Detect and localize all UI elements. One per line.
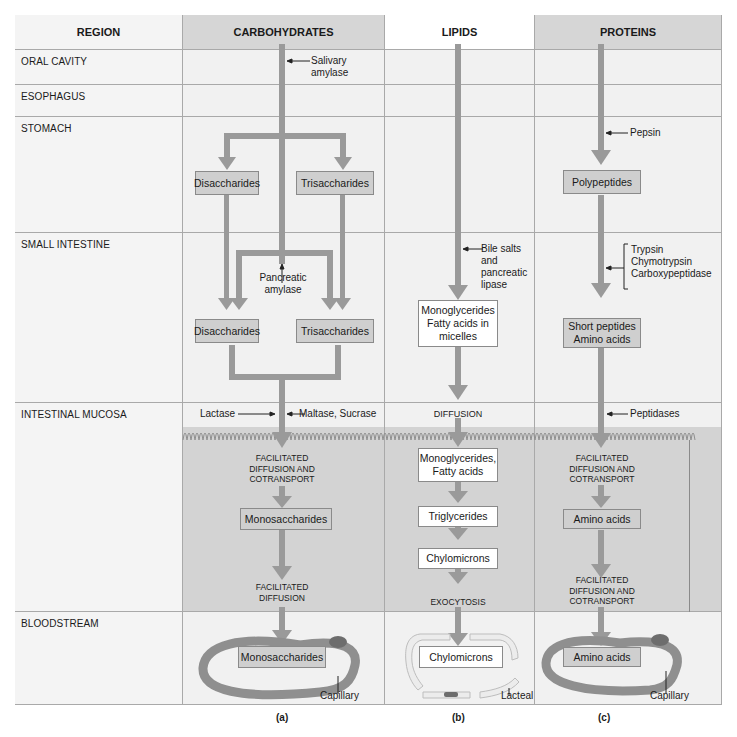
capillary-label-carbs: Capillary: [320, 690, 359, 702]
lacteal-label: Lacteal: [501, 690, 533, 702]
protein-transport-1: FACILITATED DIFFUSION AND COTRANSPORT: [556, 453, 648, 485]
lipid-mucosa-chylomicrons: Chylomicrons: [418, 548, 498, 569]
carb-stomach-disaccharides: Disaccharides: [195, 171, 259, 195]
lipid-transport-1: DIFFUSION: [427, 408, 489, 420]
carb-transport-1: FACILITATED DIFFUSION AND COTRANSPORT: [236, 453, 328, 485]
carb-intestine-trisaccharides: Trisaccharides: [296, 319, 374, 343]
protein-mucosa-amino-acids: Amino acids: [563, 509, 641, 529]
panel-label-b: (b): [452, 712, 465, 723]
lipid-intestine-micelles: Monoglycerides Fatty acids in micelles: [418, 300, 498, 347]
salivary-amylase-label: Salivary amylase: [311, 55, 348, 79]
peptidases-label: Peptidases: [630, 408, 679, 420]
protein-intestine-short-peptides: Short peptides Amino acids: [563, 318, 641, 348]
lipid-transport-2: EXOCYTOSIS: [418, 597, 498, 608]
carb-blood-monosaccharides: Monosaccharides: [238, 646, 326, 668]
capillary-label-proteins: Capillary: [650, 690, 689, 702]
panel-label-a: (a): [276, 712, 288, 723]
pancreatic-amylase-label: Pancreatic amylase: [253, 272, 313, 296]
panel-label-c: (c): [598, 712, 610, 723]
protein-main-trunk: [598, 44, 604, 154]
protein-transport-2: FACILITATED DIFFUSION AND COTRANSPORT: [556, 575, 648, 607]
lipid-blood-chylomicrons: Chylomicrons: [419, 646, 503, 668]
carb-intestine-disaccharides: Disaccharides: [195, 319, 259, 343]
carb-transport-2: FACILITATED DIFFUSION: [236, 582, 328, 603]
carb-main-trunk: [279, 44, 285, 264]
carb-mucosa-monosaccharides: Monosaccharides: [240, 508, 332, 530]
pancreatic-proteases-label: Trypsin Chymotrypsin Carboxypeptidase: [631, 244, 712, 280]
maltase-sucrase-label: Maltase, Sucrase: [299, 408, 376, 420]
pathway-graphics: [0, 0, 737, 737]
protein-stomach-polypeptides: Polypeptides: [563, 170, 641, 194]
lipid-mucosa-triglycerides: Triglycerides: [418, 506, 498, 527]
carb-stomach-trisaccharides: Trisaccharides: [296, 171, 374, 195]
protein-blood-amino-acids: Amino acids: [563, 647, 641, 667]
lipid-mucosa-monoglycerides: Monoglycerides, Fatty acids: [418, 448, 498, 482]
lactase-label: Lactase: [200, 408, 235, 420]
lipid-main-trunk: [455, 44, 461, 289]
villi-icon: [183, 433, 695, 440]
pepsin-label: Pepsin: [630, 127, 661, 139]
bile-salts-label: Bile salts and pancreatic lipase: [481, 243, 527, 291]
